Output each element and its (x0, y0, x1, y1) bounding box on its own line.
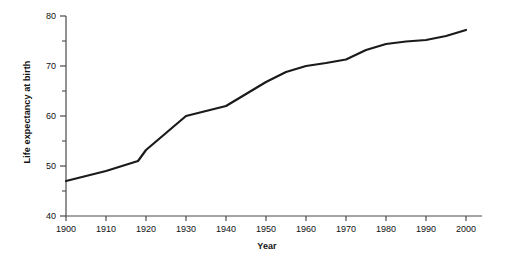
x-tick-label: 1990 (416, 224, 436, 234)
life-expectancy-chart: 4050607080 19001910192019301940195019601… (0, 0, 505, 264)
x-tick-label: 1980 (376, 224, 396, 234)
x-tick-label: 1910 (96, 224, 116, 234)
chart-canvas: 4050607080 19001910192019301940195019601… (0, 0, 505, 264)
y-tick-label: 40 (46, 211, 56, 221)
y-tick-label: 70 (46, 61, 56, 71)
y-axis-title: Life expectancy at birth (22, 61, 32, 164)
x-tick-label: 1960 (296, 224, 316, 234)
x-tick-label: 1930 (176, 224, 196, 234)
x-tick-label: 1900 (56, 224, 76, 234)
x-tick-label: 1940 (216, 224, 236, 234)
x-tick-label: 1920 (136, 224, 156, 234)
y-tick-label: 80 (46, 11, 56, 21)
x-tick-label: 1950 (256, 224, 276, 234)
y-tick-label: 50 (46, 161, 56, 171)
x-tick-label: 1970 (336, 224, 356, 234)
x-tick-label: 2000 (456, 224, 476, 234)
y-tick-label: 60 (46, 111, 56, 121)
x-axis-title: Year (257, 241, 277, 251)
